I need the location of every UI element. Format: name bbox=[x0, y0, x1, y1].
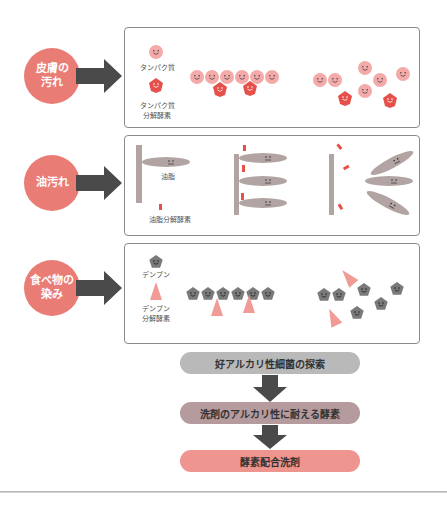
protease-icon bbox=[149, 78, 163, 93]
right-arrow-icon bbox=[76, 59, 124, 93]
flow-step-2: 洗剤のアルカリ性に耐える酵素 bbox=[180, 402, 360, 424]
lipase-icon bbox=[159, 204, 162, 210]
protease-label: タンパク質 分解酵素 bbox=[133, 101, 181, 121]
down-arrow-icon bbox=[253, 425, 287, 449]
category-circle-skin: 皮膚の 汚れ bbox=[24, 48, 80, 104]
right-arrow-icon bbox=[76, 166, 124, 200]
oil-stain-panel: 油脂 油脂分解酵素 bbox=[124, 135, 420, 236]
protein-icon bbox=[149, 45, 163, 59]
down-arrow-icon bbox=[253, 375, 287, 402]
skin-stain-panel: タンパク質 タンパク質 分解酵素 bbox=[124, 27, 420, 128]
flow-step-1: 好アルカリ性細菌の探索 bbox=[180, 352, 360, 374]
lipase-label: 油脂分解酵素 bbox=[135, 215, 205, 225]
fat-label: 油脂 bbox=[153, 172, 183, 182]
fat-icon bbox=[142, 157, 190, 167]
flow-step-3: 酵素配合洗剤 bbox=[180, 450, 360, 472]
starch-icon bbox=[149, 255, 162, 268]
protein-label: タンパク質 bbox=[133, 63, 181, 73]
amylase-icon bbox=[150, 282, 162, 300]
category-circle-food: 食べ物の 染み bbox=[24, 260, 80, 316]
category-circle-oil: 油汚れ bbox=[24, 155, 80, 211]
bottom-divider bbox=[0, 491, 447, 493]
food-stain-panel: デンプン デンプン 分解酵素 bbox=[124, 243, 420, 344]
starch-label: デンプン bbox=[133, 270, 179, 280]
right-arrow-icon bbox=[76, 271, 124, 305]
starch-breakdown-diagram bbox=[125, 244, 419, 343]
amylase-label: デンプン 分解酵素 bbox=[133, 304, 179, 324]
